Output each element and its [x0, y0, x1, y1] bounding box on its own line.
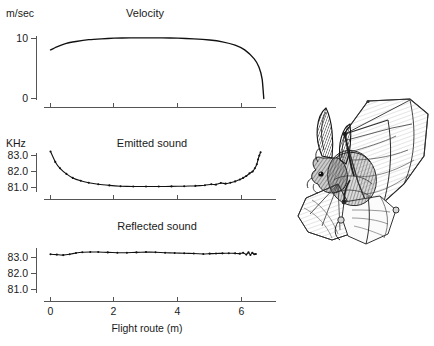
data-point [194, 185, 196, 187]
data-point [258, 154, 260, 156]
reflected-data-curve [51, 252, 256, 255]
data-point [248, 172, 250, 174]
data-point [75, 252, 77, 254]
reflected-xtick-label-2: 2 [111, 305, 117, 317]
data-point [59, 167, 61, 169]
data-point [257, 158, 259, 160]
data-point [239, 178, 241, 180]
reflected-xtick-label-0: 0 [48, 305, 54, 317]
data-point [81, 251, 83, 253]
emitted-ytick-label-81: 81.0 [8, 181, 29, 193]
emitted-sound-panel: KHz Emitted sound 83.0 82.0 81.0 [6, 137, 276, 200]
data-point [247, 251, 249, 253]
data-point [56, 254, 58, 256]
data-point [204, 184, 206, 186]
data-point [145, 251, 147, 253]
data-point [254, 167, 256, 169]
data-point [145, 185, 147, 187]
data-point [80, 180, 82, 182]
reflected-sound-panel: Reflected sound 83.0 82.0 81.0 0 2 4 6 F… [8, 220, 276, 334]
data-point [202, 253, 204, 255]
data-point [97, 251, 99, 253]
velocity-ytick-label-10: 10 [16, 32, 28, 44]
data-point [164, 252, 166, 254]
reflected-ytick-label-83: 83.0 [8, 251, 29, 263]
data-point [242, 252, 244, 254]
data-point [155, 251, 157, 253]
velocity-data-curve [51, 38, 264, 99]
data-point [251, 252, 253, 254]
data-point [89, 251, 91, 253]
reflected-ytick-label-81: 81.0 [8, 283, 29, 295]
data-point [49, 150, 51, 152]
data-point [132, 185, 134, 187]
data-point [225, 183, 227, 185]
emitted-ytick-label-82: 82.0 [8, 165, 29, 177]
data-point [215, 184, 217, 186]
data-point [234, 252, 236, 254]
velocity-panel-title: Velocity [126, 7, 164, 19]
data-point [228, 252, 230, 254]
reflected-xtick-label-4: 4 [175, 305, 181, 317]
data-point [245, 175, 247, 177]
data-point [255, 253, 257, 255]
data-point [72, 177, 74, 179]
data-point [183, 252, 185, 254]
data-point [245, 254, 247, 256]
data-point [54, 161, 56, 163]
data-point [193, 252, 195, 254]
emitted-data-curve [51, 152, 261, 187]
velocity-unit-label: m/sec [6, 7, 34, 19]
data-point [107, 251, 109, 253]
data-point [210, 183, 212, 185]
data-point [220, 182, 222, 184]
charts-svg: m/sec Velocity 10 0 KHz Emi [0, 0, 290, 346]
data-point [49, 253, 51, 255]
velocity-panel: m/sec Velocity 10 0 [6, 7, 276, 108]
data-point [242, 177, 244, 179]
charts-column: m/sec Velocity 10 0 KHz Emi [0, 0, 290, 346]
data-point [88, 182, 90, 184]
data-point [221, 252, 223, 254]
data-point [170, 185, 172, 187]
data-point [116, 252, 118, 254]
reflected-xtick-label-6: 6 [239, 305, 245, 317]
data-point [69, 253, 71, 255]
data-point [97, 183, 99, 185]
data-point [62, 254, 64, 256]
emitted-panel-title: Emitted sound [117, 137, 187, 149]
reflected-ytick-label-82: 82.0 [8, 267, 29, 279]
bat-illustration [292, 98, 434, 250]
data-point [229, 182, 231, 184]
data-point [158, 185, 160, 187]
data-point [239, 253, 241, 255]
bat-echolocation-figure: m/sec Velocity 10 0 KHz Emi [0, 0, 434, 346]
data-point [108, 184, 110, 186]
bat-head [307, 157, 347, 193]
data-point [135, 251, 137, 253]
data-point [215, 252, 217, 254]
emitted-unit-label: KHz [6, 137, 26, 149]
data-point [234, 180, 236, 182]
data-point [209, 253, 211, 255]
data-point [252, 170, 254, 172]
data-point [174, 252, 176, 254]
emitted-data-points [49, 150, 261, 187]
velocity-ytick-label-0: 0 [22, 92, 28, 104]
data-point [126, 252, 128, 254]
data-point [119, 185, 121, 187]
data-point [249, 254, 251, 256]
x-axis-title: Flight route (m) [111, 322, 182, 334]
emitted-ytick-label-83: 83.0 [8, 149, 29, 161]
data-point [65, 173, 67, 175]
data-point [260, 151, 262, 153]
reflected-panel-title: Reflected sound [117, 220, 197, 232]
data-point [256, 163, 258, 165]
bat-drawing-svg [292, 98, 434, 250]
data-point [183, 185, 185, 187]
